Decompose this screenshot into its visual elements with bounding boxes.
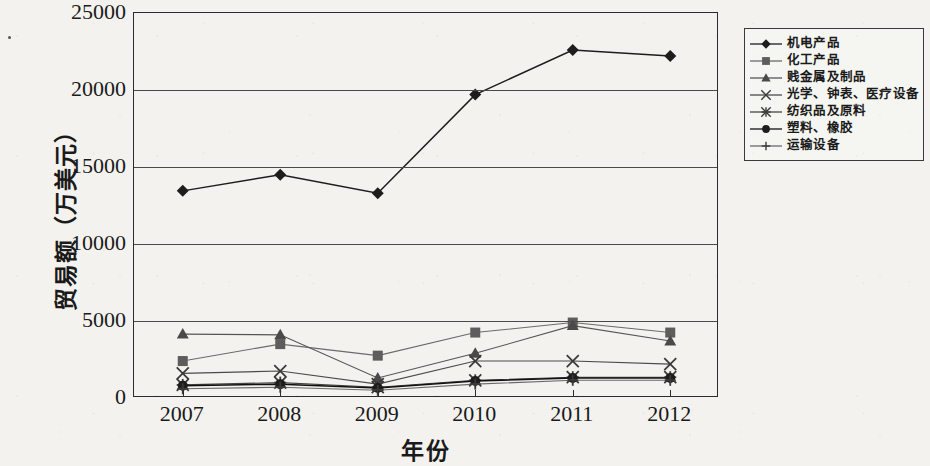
marker-square bbox=[470, 328, 480, 338]
legend-marker-x-icon bbox=[749, 87, 783, 103]
x-tick-label: 2007 bbox=[137, 401, 227, 427]
series-asterisk bbox=[177, 371, 677, 393]
legend-label: 机电产品 bbox=[787, 37, 840, 50]
marker-triangle bbox=[274, 329, 286, 340]
gridline bbox=[134, 321, 717, 322]
gridline bbox=[134, 244, 717, 245]
marker-square bbox=[373, 351, 383, 361]
legend-marker-asterisk-icon bbox=[749, 104, 783, 120]
x-axis-title: 年份 bbox=[133, 432, 718, 466]
x-tick-label: 2011 bbox=[527, 401, 617, 427]
legend-label: 贱金属及制品 bbox=[787, 71, 866, 84]
legend-item-1[interactable]: 机电产品 bbox=[749, 35, 917, 52]
marker-square bbox=[275, 339, 285, 349]
legend-label: 纺织品及原料 bbox=[787, 105, 866, 118]
x-tick-mark bbox=[378, 390, 379, 397]
y-tick-label: 20000 bbox=[16, 78, 126, 100]
y-tick-label: 0 bbox=[16, 386, 126, 408]
legend-marker-triangle-icon bbox=[749, 70, 783, 86]
marker-diamond bbox=[567, 44, 579, 56]
x-tick-mark bbox=[573, 390, 574, 397]
gridline bbox=[134, 90, 717, 91]
y-tick-label: 15000 bbox=[16, 155, 126, 177]
y-axis-tick-labels: 0500010000150002000025000 bbox=[8, 0, 126, 461]
marker-square bbox=[762, 57, 770, 65]
x-tick-label: 2012 bbox=[624, 401, 714, 427]
marker-diamond bbox=[761, 39, 770, 48]
series-lines-layer bbox=[134, 13, 719, 398]
legend-item-6[interactable]: 塑料、橡胶 bbox=[749, 120, 917, 137]
y-tick-label: 5000 bbox=[16, 309, 126, 331]
legend-item-2[interactable]: 化工产品 bbox=[749, 52, 917, 69]
x-tick-mark bbox=[670, 390, 671, 397]
series-diamond bbox=[177, 44, 677, 199]
legend-marker-diamond-icon bbox=[749, 36, 783, 52]
legend-marker-circle-icon bbox=[749, 121, 783, 137]
x-tick-label: 2009 bbox=[332, 401, 422, 427]
marker-diamond bbox=[664, 50, 676, 62]
x-tick-label: 2008 bbox=[234, 401, 324, 427]
legend-marker-square-icon bbox=[749, 53, 783, 69]
legend-label: 塑料、橡胶 bbox=[787, 122, 853, 135]
series-square bbox=[178, 318, 676, 367]
legend-item-3[interactable]: 贱金属及制品 bbox=[749, 69, 917, 86]
marker-square bbox=[178, 356, 188, 366]
legend-label: 化工产品 bbox=[787, 54, 840, 67]
x-tick-label: 2010 bbox=[429, 401, 519, 427]
chart-legend: 机电产品化工产品贱金属及制品光学、钟表、医疗设备纺织品及原料塑料、橡胶运输设备 bbox=[744, 28, 924, 161]
marker-triangle bbox=[177, 328, 189, 339]
gridline bbox=[134, 167, 717, 168]
legend-item-7[interactable]: 运输设备 bbox=[749, 137, 917, 154]
marker-asterisk bbox=[761, 107, 770, 116]
legend-item-5[interactable]: 纺织品及原料 bbox=[749, 103, 917, 120]
legend-label: 光学、钟表、医疗设备 bbox=[787, 88, 919, 101]
legend-label: 运输设备 bbox=[787, 139, 840, 152]
x-tick-mark bbox=[183, 390, 184, 397]
legend-item-4[interactable]: 光学、钟表、医疗设备 bbox=[749, 86, 917, 103]
x-tick-mark bbox=[280, 390, 281, 397]
legend-marker-plus-icon bbox=[749, 138, 783, 154]
plot-area bbox=[133, 12, 718, 397]
y-tick-label: 25000 bbox=[16, 1, 126, 23]
marker-plus bbox=[762, 141, 771, 150]
y-tick-label: 10000 bbox=[16, 232, 126, 254]
marker-circle bbox=[762, 125, 770, 133]
marker-diamond bbox=[177, 185, 189, 197]
marker-diamond bbox=[274, 169, 286, 181]
x-tick-mark bbox=[475, 390, 476, 397]
